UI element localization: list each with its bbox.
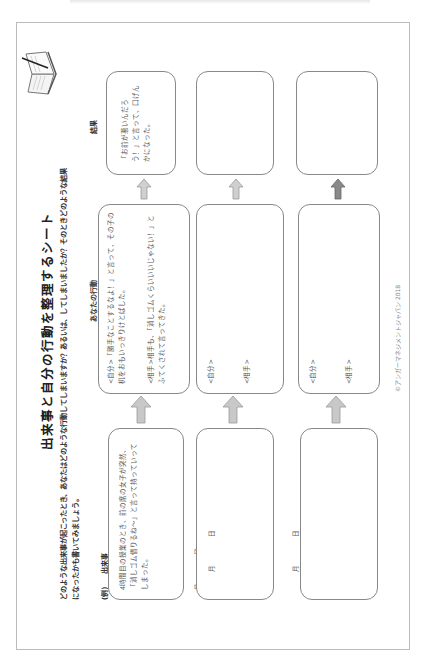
up-arrow-icon	[325, 395, 347, 425]
up-arrow-icon	[130, 395, 152, 425]
date-month-label: 月	[208, 565, 216, 572]
up-arrow-icon	[330, 178, 346, 200]
up-arrow-icon	[136, 178, 152, 200]
column-header-result: 結果	[88, 120, 98, 134]
date-field-row-3[interactable]: 月 日	[290, 530, 300, 572]
action-self-example: <自分>「勝手なことするなよ！」と言って、その子の机をおもいっきりけとばした。	[106, 212, 128, 384]
date-day-label: 日	[292, 530, 300, 537]
instructions-line-2: になったかも書いてみましょう。	[70, 40, 82, 600]
result-box-row-2[interactable]	[196, 71, 274, 175]
event-text-example: 4時間目の授業のとき、前の席の女子が突然、「消しゴム借りるね～」と言って持ってい…	[118, 438, 151, 590]
result-box-row-3[interactable]	[296, 71, 378, 175]
up-arrow-icon	[222, 395, 244, 425]
date-field-row-2[interactable]: 月 日	[206, 530, 216, 572]
action-other-row-3: <相手>	[344, 359, 355, 384]
open-book-with-pen-icon	[18, 42, 63, 102]
date-day-label: 日	[208, 530, 216, 537]
instructions: どのような出来事が起こったとき、あなたはどのような行動してしまいますか？あるいは…	[58, 40, 82, 600]
action-self-row-2: <自分>	[206, 359, 217, 384]
up-arrow-icon	[228, 178, 244, 200]
result-text-example: 「お前が悪いんだろう！」と言って、口げんかになった。	[120, 82, 153, 162]
event-box-row-2[interactable]	[196, 428, 274, 600]
instructions-line-1: どのような出来事が起こったとき、あなたはどのような行動してしまいますか？あるいは…	[58, 40, 70, 600]
column-header-action: あなたの行動	[88, 280, 98, 322]
action-other-example: <相手>相手も、「消しゴムくらいいいじゃない！」とふてくされて言ってきた。	[146, 212, 168, 384]
action-self-row-3: <自分>	[308, 359, 319, 384]
event-box-row-3[interactable]	[300, 428, 378, 600]
action-other-row-2: <相手>	[242, 359, 253, 384]
date-month-label: 月	[292, 565, 300, 572]
copyright-notice: ©アンガーマネジメントジャパン 2018	[393, 285, 402, 392]
